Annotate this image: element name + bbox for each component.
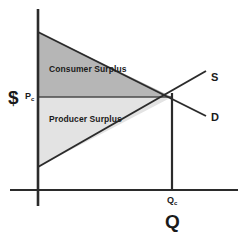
consumer-surplus-label: Consumer Surplus (49, 64, 127, 74)
quantity-tick-sublabel: c (174, 200, 178, 206)
price-tick-sublabel: c (31, 96, 35, 102)
surplus-diagram: Consumer Surplus Producer Surplus S D $ … (0, 0, 246, 241)
quantity-tick-label: Q (167, 195, 174, 205)
surplus-chart-svg: Consumer Surplus Producer Surplus S D $ … (0, 0, 246, 241)
y-axis-dollar-label: $ (8, 87, 19, 108)
x-axis-quantity-label: Q (165, 211, 180, 232)
producer-surplus-label: Producer Surplus (49, 114, 122, 124)
supply-curve-label: S (211, 71, 218, 83)
demand-curve-label: D (211, 111, 219, 123)
